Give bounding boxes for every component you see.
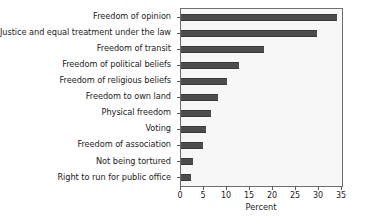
x-axis-tick <box>295 186 296 190</box>
category-label: Freedom of opinion <box>0 8 176 24</box>
category-tick <box>177 177 181 178</box>
category-label: Freedom of religious beliefs <box>0 72 176 88</box>
bar-row <box>181 73 342 89</box>
category-tick <box>177 129 181 130</box>
bar <box>181 142 203 149</box>
x-axis-tick-label: 35 <box>336 191 346 200</box>
bar <box>181 126 206 133</box>
bar-row <box>181 57 342 73</box>
x-axis-tick-label: 30 <box>313 191 323 200</box>
bar <box>181 62 239 69</box>
bar <box>181 14 337 21</box>
x-axis-title: Percent <box>180 202 342 212</box>
category-tick <box>177 81 181 82</box>
category-label: Right to run for public office <box>0 169 176 185</box>
x-axis-tick <box>272 186 273 190</box>
x-axis-tick <box>318 186 319 190</box>
bar-row <box>181 9 342 25</box>
bar-row <box>181 89 342 105</box>
category-label: Freedom of political beliefs <box>0 56 176 72</box>
bar-row <box>181 25 342 41</box>
category-label: Justice and equal treatment under the la… <box>0 24 176 40</box>
bar <box>181 158 193 165</box>
bar-row <box>181 154 342 170</box>
category-tick <box>177 17 181 18</box>
x-axis-tick-label: 5 <box>200 191 205 200</box>
bars-container <box>181 9 342 186</box>
category-label: Voting <box>0 121 176 137</box>
bar <box>181 46 264 53</box>
bar-row <box>181 122 342 138</box>
x-axis-tick-label: 25 <box>290 191 300 200</box>
x-axis-tick <box>341 186 342 190</box>
category-tick <box>177 161 181 162</box>
bar-row <box>181 170 342 186</box>
category-label: Freedom of association <box>0 137 176 153</box>
x-axis-tick <box>180 186 181 190</box>
x-axis-tick-label: 0 <box>177 191 182 200</box>
x-axis-tick-label: 10 <box>221 191 231 200</box>
plot-area <box>180 8 343 187</box>
bar <box>181 94 218 101</box>
category-label: Not being tortured <box>0 153 176 169</box>
x-axis-tick <box>203 186 204 190</box>
bar-row <box>181 138 342 154</box>
category-label: Physical freedom <box>0 105 176 121</box>
bar <box>181 110 211 117</box>
category-label: Freedom of transit <box>0 40 176 56</box>
category-tick <box>177 33 181 34</box>
x-axis: 05101520253035 <box>180 186 342 187</box>
x-axis-tick <box>249 186 250 190</box>
x-axis-tick-label: 15 <box>244 191 254 200</box>
category-tick <box>177 65 181 66</box>
bar <box>181 78 227 85</box>
x-axis-tick-label: 20 <box>267 191 277 200</box>
x-axis-tick <box>226 186 227 190</box>
bar-row <box>181 106 342 122</box>
category-tick <box>177 97 181 98</box>
category-tick <box>177 49 181 50</box>
bar-chart: Freedom of opinion Justice and equal tre… <box>0 0 365 220</box>
category-axis-labels: Freedom of opinion Justice and equal tre… <box>0 8 176 185</box>
category-tick <box>177 113 181 114</box>
category-label: Freedom to own land <box>0 88 176 104</box>
bar-row <box>181 41 342 57</box>
bar <box>181 174 191 181</box>
bar <box>181 30 317 37</box>
category-tick <box>177 145 181 146</box>
